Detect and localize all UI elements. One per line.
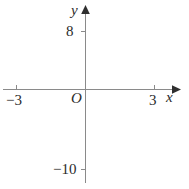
y-tick-label-8: 8 <box>66 24 74 39</box>
origin-label: O <box>71 91 82 106</box>
x-axis-label: x <box>166 90 173 105</box>
x-tick-label-neg3: −3 <box>6 93 22 108</box>
x-axis-arrowhead-icon <box>172 85 181 94</box>
y-axis-arrowhead-icon <box>81 5 90 14</box>
coordinate-axes-figure: y x 8 −10 O −3 3 <box>0 0 189 189</box>
axes-drawing <box>0 0 189 189</box>
y-tick-label-neg10: −10 <box>53 162 76 177</box>
y-axis-label: y <box>71 3 78 18</box>
x-tick-label-3: 3 <box>149 93 157 108</box>
